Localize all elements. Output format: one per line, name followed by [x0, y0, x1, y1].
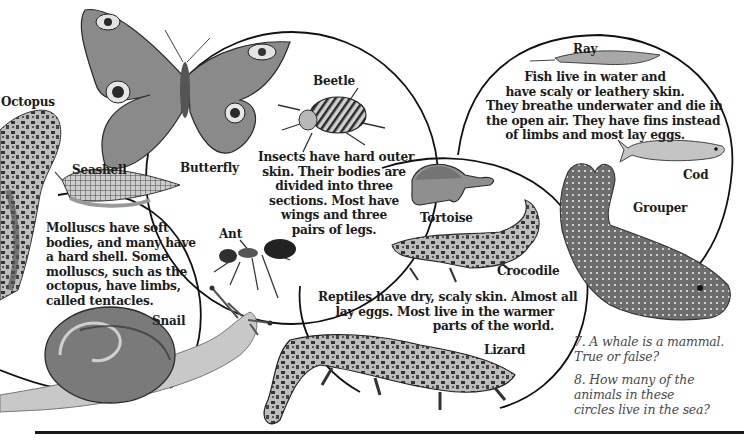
- butterfly-illustration: [81, 10, 290, 169]
- label-snail: Snail: [152, 314, 185, 328]
- label-ant: Ant: [219, 227, 242, 241]
- label-lizard: Lizard: [484, 343, 525, 357]
- lizard-illustration: [264, 335, 515, 424]
- grouper-illustration: [560, 164, 730, 320]
- label-cod: Cod: [683, 168, 708, 182]
- label-crocodile: Crocodile: [497, 264, 560, 278]
- label-seashell: Seashell: [72, 163, 127, 177]
- label-ray: Ray: [573, 42, 597, 56]
- label-butterfly: Butterfly: [180, 161, 239, 175]
- molluscs-description: Molluscs have soft bodies, and many have…: [46, 221, 196, 309]
- fish-description: Fish live in water and have scaly or lea…: [486, 70, 704, 143]
- label-grouper: Grouper: [633, 201, 687, 215]
- insects-description: Insects have hard outer skin. Their bodi…: [258, 150, 410, 238]
- question-7: 7. A whale is a mammal. True or false?: [574, 334, 724, 364]
- beetle-illustration: [278, 88, 385, 152]
- reptiles-description: Reptiles have dry, scaly skin. Almost al…: [318, 290, 554, 334]
- ant-illustration: [214, 239, 296, 298]
- question-8: 8. How many of the animals in these circ…: [574, 372, 710, 417]
- tortoise-illustration: [412, 164, 494, 205]
- cod-illustration: [618, 140, 724, 162]
- label-tortoise: Tortoise: [420, 211, 473, 225]
- label-beetle: Beetle: [313, 74, 355, 88]
- label-octopus: Octopus: [1, 95, 55, 109]
- bottom-rule-divider: [35, 431, 744, 434]
